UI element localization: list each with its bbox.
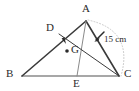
vertex-label-A: A (82, 3, 90, 14)
side-AC (86, 21, 119, 76)
dimension-leader-line (96, 32, 104, 40)
centroid-point-G (65, 49, 69, 53)
dimension-label-15cm: 15 cm (104, 35, 126, 44)
figure-canvas (0, 0, 139, 91)
vertex-label-B: B (6, 68, 13, 79)
vertex-label-G: G (71, 44, 79, 55)
vertex-label-C: C (124, 68, 131, 79)
vertex-label-D: D (46, 22, 54, 33)
dotted-arc-A-to-C (88, 20, 124, 76)
geometry-figure: A B C D E G 15 cm (0, 0, 139, 91)
vertex-label-E: E (73, 78, 80, 89)
